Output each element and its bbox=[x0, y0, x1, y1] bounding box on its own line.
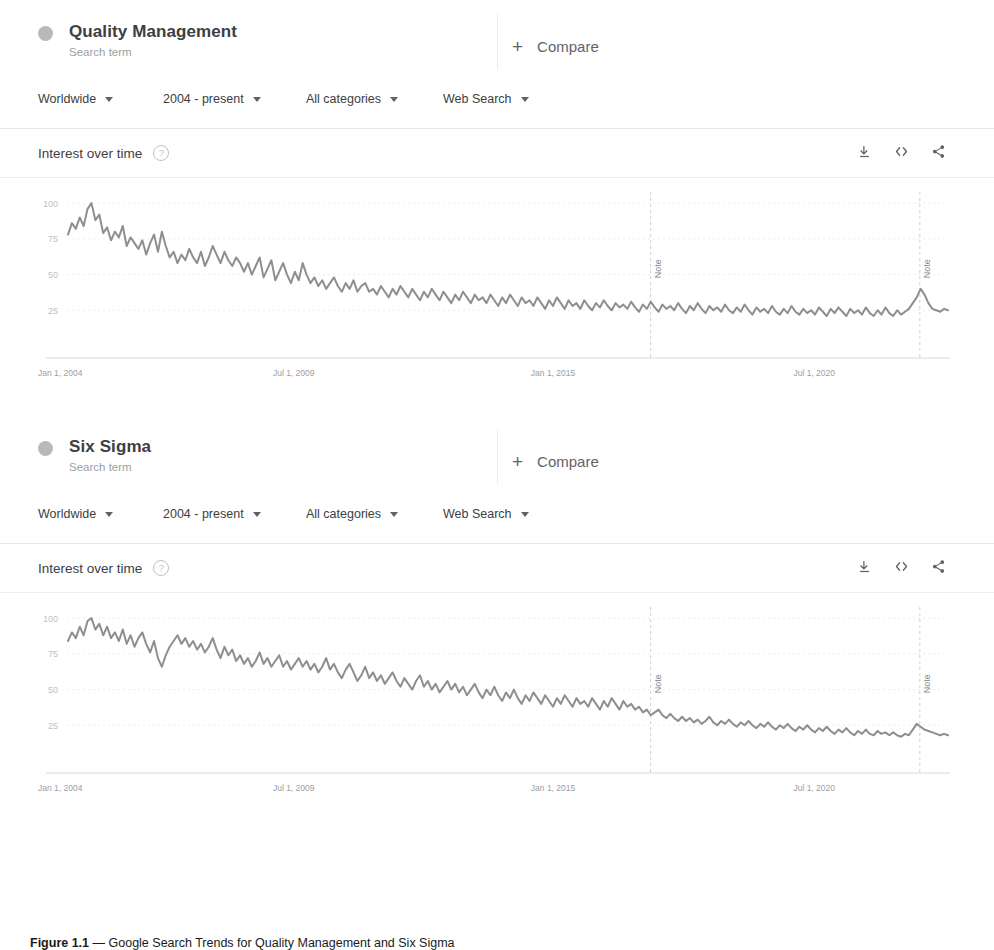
chevron-down-icon bbox=[253, 512, 261, 517]
x-axis-tick: Jul 1, 2009 bbox=[273, 368, 315, 378]
note-annotation: Note bbox=[653, 259, 663, 278]
time-range-filter-label: 2004 - present bbox=[163, 92, 244, 106]
x-axis-tick: Jan 1, 2004 bbox=[38, 368, 83, 378]
search-term-subtitle: Search term bbox=[69, 460, 151, 474]
region-filter-label: Worldwide bbox=[38, 507, 96, 521]
y-axis-tick: 25 bbox=[48, 721, 58, 731]
x-axis-tick: Jan 1, 2015 bbox=[531, 783, 576, 793]
y-axis-tick: 25 bbox=[48, 306, 58, 316]
chevron-down-icon bbox=[253, 97, 261, 102]
region-filter-label: Worldwide bbox=[38, 92, 96, 106]
x-axis-tick: Jul 1, 2009 bbox=[273, 783, 315, 793]
chevron-down-icon bbox=[390, 512, 398, 517]
vertical-divider bbox=[497, 429, 498, 485]
note-annotation: Note bbox=[653, 674, 663, 693]
filter-row-1: Worldwide 2004 - present All categories … bbox=[0, 493, 994, 535]
chevron-down-icon bbox=[521, 512, 529, 517]
y-axis-tick: 100 bbox=[43, 614, 58, 624]
help-icon[interactable]: ? bbox=[153, 145, 169, 161]
time-range-filter[interactable]: 2004 - present bbox=[163, 92, 306, 106]
chart-container-0: 255075100NoteNoteJan 1, 2004Jul 1, 2009J… bbox=[0, 178, 994, 393]
figure-caption: Figure 1.1 — Google Search Trends for Qu… bbox=[30, 936, 455, 950]
search-type-filter[interactable]: Web Search bbox=[443, 507, 529, 521]
plus-icon: + bbox=[512, 454, 523, 469]
embed-icon[interactable] bbox=[893, 144, 910, 163]
y-axis-tick: 100 bbox=[43, 199, 58, 209]
term-block-1: Six Sigma Search term + Compare bbox=[0, 415, 994, 493]
compare-label: Compare bbox=[537, 453, 599, 470]
download-icon[interactable] bbox=[857, 144, 872, 163]
panel-title: Interest over time bbox=[38, 561, 142, 576]
vertical-divider bbox=[497, 14, 498, 70]
plus-icon: + bbox=[512, 39, 523, 54]
series-line bbox=[68, 618, 948, 737]
compare-button[interactable]: + Compare bbox=[512, 38, 599, 55]
search-type-filter[interactable]: Web Search bbox=[443, 92, 529, 106]
y-axis-tick: 50 bbox=[48, 685, 58, 695]
term-block-0: Quality Management Search term + Compare bbox=[0, 0, 994, 78]
compare-button[interactable]: + Compare bbox=[512, 453, 599, 470]
time-range-filter-label: 2004 - present bbox=[163, 507, 244, 521]
category-filter-label: All categories bbox=[306, 507, 381, 521]
share-icon[interactable] bbox=[931, 144, 946, 163]
caption-dash: — bbox=[93, 936, 106, 950]
category-filter-label: All categories bbox=[306, 92, 381, 106]
interest-over-time-chart-1[interactable]: 255075100NoteNoteJan 1, 2004Jul 1, 2009J… bbox=[0, 593, 994, 808]
category-filter[interactable]: All categories bbox=[306, 92, 443, 106]
region-filter[interactable]: Worldwide bbox=[38, 92, 163, 106]
time-range-filter[interactable]: 2004 - present bbox=[163, 507, 306, 521]
category-filter[interactable]: All categories bbox=[306, 507, 443, 521]
y-axis-tick: 75 bbox=[48, 649, 58, 659]
region-filter[interactable]: Worldwide bbox=[38, 507, 163, 521]
search-type-filter-label: Web Search bbox=[443, 507, 512, 521]
interest-over-time-chart-0[interactable]: 255075100NoteNoteJan 1, 2004Jul 1, 2009J… bbox=[0, 178, 994, 393]
note-annotation: Note bbox=[922, 674, 932, 693]
y-axis-tick: 75 bbox=[48, 234, 58, 244]
chevron-down-icon bbox=[105, 97, 113, 102]
search-type-filter-label: Web Search bbox=[443, 92, 512, 106]
x-axis-tick: Jul 1, 2020 bbox=[793, 783, 835, 793]
chart-container-1: 255075100NoteNoteJan 1, 2004Jul 1, 2009J… bbox=[0, 593, 994, 808]
series-color-dot bbox=[38, 441, 53, 456]
search-term-title: Six Sigma bbox=[69, 437, 151, 457]
share-icon[interactable] bbox=[931, 559, 946, 578]
series-line bbox=[68, 203, 948, 316]
download-icon[interactable] bbox=[857, 559, 872, 578]
embed-icon[interactable] bbox=[893, 559, 910, 578]
chevron-down-icon bbox=[521, 97, 529, 102]
chevron-down-icon bbox=[105, 512, 113, 517]
x-axis-tick: Jul 1, 2020 bbox=[793, 368, 835, 378]
y-axis-tick: 50 bbox=[48, 270, 58, 280]
x-axis-tick: Jan 1, 2015 bbox=[531, 368, 576, 378]
chevron-down-icon bbox=[390, 97, 398, 102]
x-axis-tick: Jan 1, 2004 bbox=[38, 783, 83, 793]
compare-label: Compare bbox=[537, 38, 599, 55]
caption-text: Google Search Trends for Quality Managem… bbox=[109, 936, 455, 950]
help-icon[interactable]: ? bbox=[153, 560, 169, 576]
caption-prefix: Figure 1.1 bbox=[30, 936, 89, 950]
panel-header-1: Interest over time ? bbox=[0, 544, 994, 592]
series-color-dot bbox=[38, 26, 53, 41]
note-annotation: Note bbox=[922, 259, 932, 278]
search-term-subtitle: Search term bbox=[69, 45, 237, 59]
filter-row-0: Worldwide 2004 - present All categories … bbox=[0, 78, 994, 120]
panel-header-0: Interest over time ? bbox=[0, 129, 994, 177]
search-term-title: Quality Management bbox=[69, 22, 237, 42]
panel-title: Interest over time bbox=[38, 146, 142, 161]
